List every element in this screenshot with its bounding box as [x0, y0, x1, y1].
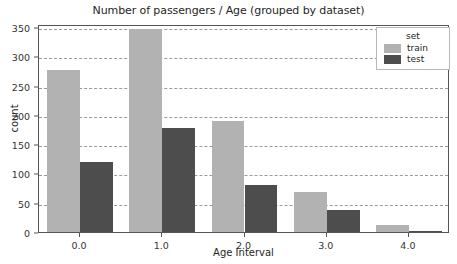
y-tick-label: 0: [24, 228, 30, 239]
legend-title: set: [384, 32, 442, 41]
bar-test-3.0: [327, 210, 360, 232]
x-tick-mark: [161, 233, 162, 237]
bar-test-2.0: [245, 185, 278, 232]
chart-figure: Number of passengers / Age (grouped by d…: [0, 0, 457, 264]
y-tick-label: 100: [12, 169, 30, 180]
bar-train-2.0: [212, 121, 245, 232]
y-tick-label: 350: [12, 22, 30, 33]
y-tick-label: 300: [12, 52, 30, 63]
chart-title: Number of passengers / Age (grouped by d…: [0, 4, 457, 17]
legend-label: train: [407, 44, 428, 53]
x-tick-mark: [408, 233, 409, 237]
bar-test-4.0: [409, 231, 442, 232]
bar-train-4.0: [376, 225, 409, 232]
x-axis-label: Age Interval: [38, 247, 449, 258]
legend-entry-test[interactable]: test: [384, 55, 442, 64]
bar-train-1.0: [129, 29, 162, 232]
x-tick-mark: [326, 233, 327, 237]
legend-swatch-test: [384, 55, 401, 64]
bar-test-1.0: [162, 128, 195, 232]
x-tick-mark: [79, 233, 80, 237]
bar-train-0.0: [47, 70, 80, 232]
x-tick-mark: [244, 233, 245, 237]
y-axis-label: count: [9, 89, 20, 149]
y-tick-label: 50: [18, 198, 30, 209]
legend: set traintest: [376, 27, 450, 70]
legend-entry-train[interactable]: train: [384, 44, 442, 53]
bar-test-0.0: [80, 162, 113, 232]
legend-swatch-train: [384, 44, 401, 53]
legend-entries: traintest: [384, 44, 442, 64]
bar-train-3.0: [294, 192, 327, 232]
legend-label: test: [407, 55, 424, 64]
